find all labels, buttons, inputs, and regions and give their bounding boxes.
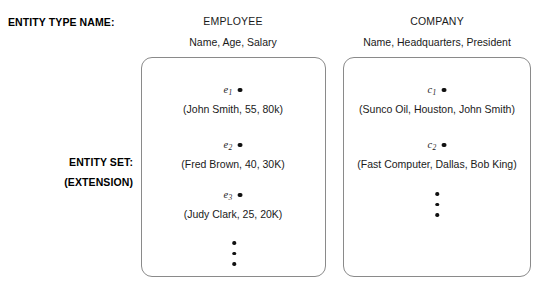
entity-dot-e3 bbox=[238, 193, 243, 198]
entity-instance-values-c2: (Fast Computer, Dallas, Bob King) bbox=[357, 158, 516, 170]
entity-instance-values-e3: (Judy Clark, 25, 20K) bbox=[184, 208, 283, 220]
entity-instance-label-e3: e3 bbox=[224, 184, 243, 202]
entity-instance-id-e2-subscript: 2 bbox=[229, 143, 233, 152]
entity-dot-c1 bbox=[442, 88, 447, 93]
entity-instance-values-e2: (Fred Brown, 40, 30K) bbox=[181, 158, 284, 170]
entity-set-caption: ENTITY SET: bbox=[69, 156, 133, 168]
entity-set-extension-caption: (EXTENSION) bbox=[64, 176, 133, 188]
entity-instance-id-e1: e1 bbox=[224, 84, 232, 95]
entity-instance-values-c1: (Sunco Oil, Houston, John Smith) bbox=[359, 103, 515, 115]
entity-instance-label-e1: e1 bbox=[224, 79, 243, 97]
entity-type-name-caption: ENTITY TYPE NAME: bbox=[8, 16, 115, 28]
diagram-canvas: ENTITY TYPE NAME: ENTITY SET: (EXTENSION… bbox=[0, 0, 546, 289]
ellipsis-dot bbox=[435, 203, 439, 207]
entity-instance-id-e1-base: e bbox=[224, 84, 229, 95]
vertical-ellipsis-icon-employee bbox=[232, 241, 236, 266]
entity-instance-id-e3-subscript: 3 bbox=[229, 193, 233, 202]
entity-instance-id-c2-subscript: 2 bbox=[433, 143, 437, 152]
ellipsis-dot bbox=[435, 192, 439, 196]
entity-instance-label-c2: c2 bbox=[428, 134, 447, 152]
ellipsis-dot bbox=[232, 252, 236, 256]
entity-dot-e1 bbox=[238, 88, 243, 93]
entity-instance-id-e3: e3 bbox=[224, 189, 232, 200]
entity-instance-label-c1: c1 bbox=[428, 79, 447, 97]
entity-type-attributes-company: Name, Headquarters, President bbox=[363, 36, 511, 48]
entity-instance-id-c1: c1 bbox=[428, 84, 436, 95]
vertical-ellipsis-icon-company bbox=[435, 192, 439, 217]
ellipsis-dot bbox=[232, 241, 236, 245]
entity-instance-label-e2: e2 bbox=[224, 134, 243, 152]
entity-dot-e2 bbox=[238, 143, 243, 148]
ellipsis-dot bbox=[435, 213, 439, 217]
entity-instance-id-e1-subscript: 1 bbox=[229, 88, 233, 97]
entity-type-attributes-employee: Name, Age, Salary bbox=[189, 36, 277, 48]
entity-instance-id-e2: e2 bbox=[224, 139, 232, 150]
ellipsis-dot bbox=[232, 262, 236, 266]
entity-type-title-company: COMPANY bbox=[410, 15, 464, 27]
entity-instance-id-e2-base: e bbox=[224, 139, 229, 150]
entity-instance-id-c2: c2 bbox=[428, 139, 436, 150]
entity-instance-id-c2-base: c bbox=[428, 139, 433, 150]
entity-instance-id-c1-subscript: 1 bbox=[433, 88, 437, 97]
entity-instance-values-e1: (John Smith, 55, 80k) bbox=[183, 103, 283, 115]
entity-dot-c2 bbox=[442, 143, 447, 148]
entity-instance-id-c1-base: c bbox=[428, 84, 433, 95]
entity-instance-id-e3-base: e bbox=[224, 189, 229, 200]
entity-type-title-employee: EMPLOYEE bbox=[203, 15, 262, 27]
